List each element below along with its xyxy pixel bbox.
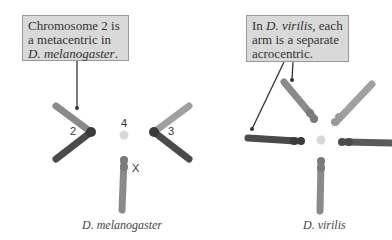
callout-virilis: In D. virilis, each arm is a separate ac… <box>246 15 349 62</box>
chromosome-4 <box>120 131 129 140</box>
virilis-arm-left <box>248 137 305 145</box>
chromosome-x <box>120 156 128 210</box>
label-chr4: 4 <box>121 117 127 129</box>
caption-melanogaster: D. melanogaster <box>82 218 162 233</box>
virilis-arm-upper-left <box>284 82 318 123</box>
label-chrX: X <box>132 162 139 174</box>
callout-melanogaster: Chromosome 2 is a metacentric in D. mela… <box>22 15 129 61</box>
label-chr3: 3 <box>168 125 174 137</box>
label-chr2: 2 <box>70 125 76 137</box>
virilis-arm-right <box>338 138 392 146</box>
virilis-arm-bottom <box>317 157 325 211</box>
caption-virilis: D. virilis <box>303 218 346 233</box>
virilis-arm-upper-right <box>331 84 372 126</box>
virilis-dot <box>317 136 326 145</box>
